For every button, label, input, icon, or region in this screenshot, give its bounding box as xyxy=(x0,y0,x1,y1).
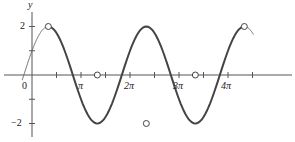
cosine-chart: y 0 2 −2 π 2π 3π 4π xyxy=(0,0,295,142)
y-tick-label-neg2: −2 xyxy=(11,117,22,128)
origin-label: 0 xyxy=(22,80,27,91)
y-axis-label: y xyxy=(27,0,33,10)
x-tick-label-2pi: 2π xyxy=(124,80,135,91)
y-tick-label-2: 2 xyxy=(20,20,25,31)
point-marker xyxy=(192,72,198,78)
point-marker xyxy=(45,24,51,30)
x-tick-label-4pi: 4π xyxy=(221,80,232,91)
x-tick-label-3pi: 3π xyxy=(172,80,184,91)
curve-extension-left xyxy=(22,27,48,81)
point-marker xyxy=(94,72,100,78)
x-tick-label-pi: π xyxy=(78,80,84,91)
point-marker xyxy=(143,121,149,127)
point-marker xyxy=(241,24,247,30)
